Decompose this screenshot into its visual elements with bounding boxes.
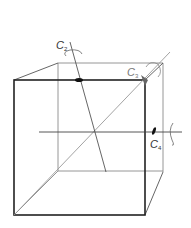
c2-label: C2 [56,40,67,52]
c3-axis-line [14,52,170,215]
cube-diagram [0,0,191,228]
c4-label: C4 [150,139,161,151]
c4-marker-icon [151,127,157,136]
c4-rotation-arrow-icon [170,123,173,145]
c2-axis-line [70,42,106,172]
c2-marker-icon [75,78,83,82]
c3-label: C3 [127,67,138,79]
